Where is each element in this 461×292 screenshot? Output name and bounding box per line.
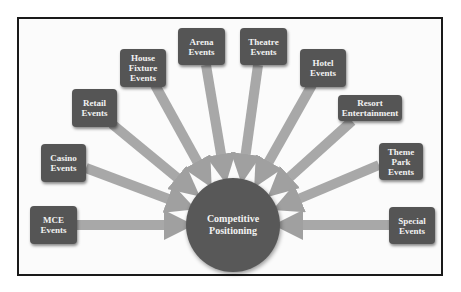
hub-competitive-positioning: Competitive Positioning bbox=[186, 178, 280, 272]
node-arena-events: Arena Events bbox=[178, 28, 225, 65]
node-theme-park-events: Theme Park Events bbox=[379, 143, 423, 180]
node-resort-entertainment: Resort Entertainment bbox=[338, 95, 402, 121]
node-special-events: Special Events bbox=[389, 207, 435, 244]
arrow-arena bbox=[206, 65, 223, 166]
node-retail-events: Retail Events bbox=[72, 89, 117, 127]
node-house-fixture-events: House Fixture Events bbox=[120, 49, 166, 87]
node-theatre-events: Theatre Events bbox=[240, 28, 287, 65]
arrow-retail bbox=[112, 124, 186, 185]
arrow-theatre bbox=[244, 65, 258, 166]
node-mce-events: MCE Events bbox=[30, 206, 77, 244]
node-hotel-events: Hotel Events bbox=[300, 49, 346, 87]
node-casino-events: Casino Events bbox=[41, 144, 86, 182]
